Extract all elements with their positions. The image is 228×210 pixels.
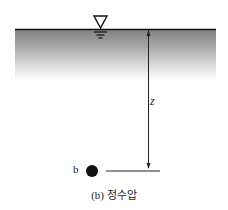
point-b-marker [86, 165, 98, 177]
water-body [15, 29, 216, 81]
hydrostatic-pressure-diagram: z b (b) 정수압 [0, 0, 228, 210]
point-label: b [73, 163, 79, 175]
depth-label: z [150, 94, 155, 109]
figure-caption: (b) 정수압 [0, 186, 228, 202]
diagram-graphic [0, 0, 228, 210]
